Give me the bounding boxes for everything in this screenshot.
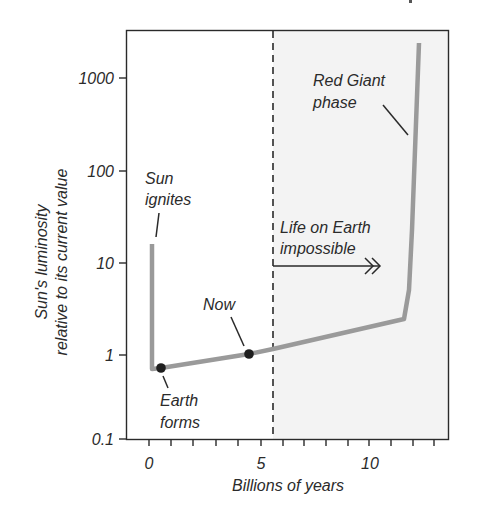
y-axis-label-line2: relative to its current value bbox=[53, 169, 70, 356]
cropped-title-fragment bbox=[409, 0, 412, 3]
ytick-1000: 1000 bbox=[78, 70, 114, 87]
sun-ignites-label-2: ignites bbox=[145, 191, 191, 208]
sun-ignites-pointer bbox=[156, 213, 159, 237]
life-impossible-label-1: Life on Earth bbox=[280, 219, 371, 236]
earth-forms-marker bbox=[156, 363, 166, 373]
now-pointer bbox=[231, 317, 244, 346]
xtick-5: 5 bbox=[257, 455, 266, 472]
ytick-10: 10 bbox=[96, 255, 114, 272]
earth-forms-pointer bbox=[163, 376, 168, 388]
luminosity-chart: 1000 100 10 1 0.1 0 5 10 Billions of yea… bbox=[0, 0, 481, 519]
red-giant-label-1: Red Giant bbox=[313, 72, 386, 89]
xtick-0: 0 bbox=[145, 455, 154, 472]
ytick-100: 100 bbox=[87, 163, 114, 180]
earth-forms-label-1: Earth bbox=[160, 392, 198, 409]
x-axis-label: Billions of years bbox=[232, 477, 344, 494]
red-giant-label-2: phase bbox=[312, 94, 357, 111]
now-marker bbox=[244, 349, 254, 359]
ytick-0.1: 0.1 bbox=[92, 431, 114, 448]
life-impossible-label-2: impossible bbox=[280, 240, 356, 257]
earth-forms-label-2: forms bbox=[160, 414, 200, 431]
y-tick-labels: 1000 100 10 1 0.1 bbox=[78, 70, 114, 448]
ytick-1: 1 bbox=[105, 347, 114, 364]
now-label: Now bbox=[203, 296, 236, 313]
y-axis-label: Sun's luminosity relative to its current… bbox=[33, 169, 70, 356]
sun-ignites-label-1: Sun bbox=[145, 170, 174, 187]
y-axis-label-line1: Sun's luminosity bbox=[33, 203, 50, 319]
x-tick-labels: 0 5 10 bbox=[145, 455, 379, 472]
xtick-10: 10 bbox=[361, 455, 379, 472]
